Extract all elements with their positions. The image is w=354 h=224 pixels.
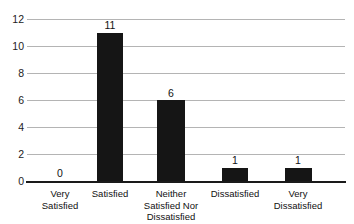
category-line-2: Satisfied [23, 200, 97, 212]
gridline-10 [27, 46, 345, 47]
bar-very-dissatisfied[interactable] [285, 168, 312, 182]
gridline-6 [27, 100, 345, 101]
bar-satisfied[interactable] [97, 33, 123, 182]
y-tick-label-12: 12 [2, 14, 24, 24]
bar-chart: 12 10 8 6 4 2 0 0 11 6 1 1 Very Satisfie… [0, 0, 354, 224]
value-label-satisfied: 11 [105, 20, 116, 30]
category-line-3: Dissatisfied [134, 211, 208, 223]
value-label-very-dissatisfied: 1 [295, 155, 301, 165]
category-line-2: Dissatisfied [261, 200, 335, 212]
y-tick-label-6: 6 [2, 95, 24, 105]
gridline-4 [27, 127, 345, 128]
category-label-neither: Neither Satisfied Nor Dissatisfied [134, 188, 208, 223]
gridline-8 [27, 73, 345, 74]
y-tick-label-4: 4 [2, 122, 24, 132]
value-label-neither: 6 [168, 88, 174, 98]
y-axis: 12 10 8 6 4 2 0 [0, 0, 24, 224]
gridline-12 [27, 19, 345, 20]
y-tick-label-8: 8 [2, 68, 24, 78]
y-tick-label-10: 10 [2, 41, 24, 51]
y-tick-label-2: 2 [2, 149, 24, 159]
value-label-very-satisfied: 0 [57, 168, 63, 178]
bar-neither-satisfied-nor-dissatisfied[interactable] [157, 100, 185, 181]
category-line-2: Satisfied Nor [134, 200, 208, 212]
bar-dissatisfied[interactable] [222, 168, 248, 182]
category-label-very-dissatisfied: Very Dissatisfied [261, 188, 335, 211]
category-line-1: Neither [134, 188, 208, 200]
y-tick-label-0: 0 [2, 176, 24, 186]
x-axis-line [26, 181, 346, 183]
category-line-1: Very [261, 188, 335, 200]
value-label-dissatisfied: 1 [232, 155, 238, 165]
